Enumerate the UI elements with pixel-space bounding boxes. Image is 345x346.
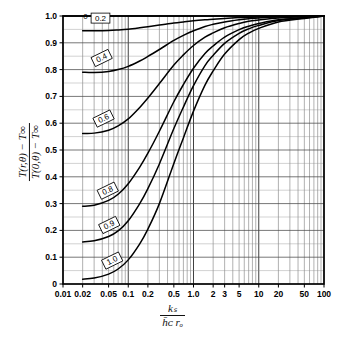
x-axis-ticks: 0.010.020.050.10.20.51.0235102050100 bbox=[55, 284, 332, 299]
x-tick-label: 1.0 bbox=[188, 289, 200, 299]
x-tick-label: 0.1 bbox=[122, 289, 134, 299]
x-tick-label: 2 bbox=[211, 289, 216, 299]
y-axis-label-numerator: T(r,θ) − T∞ bbox=[17, 123, 29, 181]
y-tick-label: 0.2 bbox=[45, 225, 57, 235]
curve-label-0p2: 0.2 bbox=[91, 13, 110, 23]
x-axis-label: kₛ h̄ᴄ rₒ bbox=[0, 302, 345, 328]
curve-label-text: 0.2 bbox=[95, 14, 107, 23]
curve-label-0: 0 bbox=[83, 12, 88, 21]
x-tick-label: 0.02 bbox=[74, 289, 91, 299]
x-axis-label-denominator: h̄ᴄ rₒ bbox=[160, 315, 185, 328]
x-tick-label: 0.01 bbox=[55, 289, 72, 299]
y-tick-label: 0 bbox=[52, 279, 57, 289]
x-tick-label: 0.2 bbox=[142, 289, 154, 299]
y-tick-label: 0.1 bbox=[45, 252, 57, 262]
x-tick-label: 0.05 bbox=[100, 289, 117, 299]
chart-figure: 00.20.40.60.80.91.00.010.020.050.10.20.5… bbox=[0, 0, 345, 346]
x-tick-label: 0.5 bbox=[168, 289, 180, 299]
curve-label-text: 0 bbox=[83, 12, 88, 21]
x-tick-label: 20 bbox=[274, 289, 284, 299]
y-tick-label: 0.9 bbox=[45, 38, 57, 48]
y-axis-label: T(r,θ) − T∞ T(0,θ) − T∞ bbox=[6, 88, 52, 216]
x-axis-label-numerator: kₛ bbox=[160, 302, 185, 315]
y-tick-label: 0.8 bbox=[45, 65, 57, 75]
x-tick-label: 100 bbox=[317, 289, 331, 299]
y-axis-label-denominator: T(0,θ) − T∞ bbox=[29, 123, 42, 181]
x-tick-label: 10 bbox=[254, 289, 264, 299]
x-tick-label: 50 bbox=[300, 289, 310, 299]
y-tick-label: 1.0 bbox=[45, 11, 57, 21]
x-tick-label: 3 bbox=[222, 289, 227, 299]
x-tick-label: 5 bbox=[237, 289, 242, 299]
